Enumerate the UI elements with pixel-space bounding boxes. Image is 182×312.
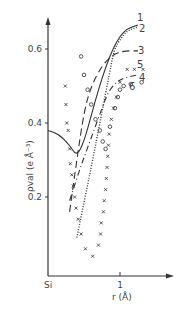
cross-marker-icon xyxy=(106,166,109,169)
x-tick-label: Si xyxy=(44,280,52,290)
curve-label-5: 5 xyxy=(137,59,143,70)
cross-marker-icon xyxy=(102,210,105,213)
cross-marker-icon xyxy=(75,207,78,210)
cross-marker-icon xyxy=(80,233,83,236)
cross-marker-icon xyxy=(110,118,113,121)
y-tick-label: 0.4 xyxy=(28,118,43,128)
circle-marker-icon xyxy=(89,103,93,107)
axis-titles: ρval (e Å⁻³) r (Å) xyxy=(24,140,132,302)
labels: 123546 xyxy=(129,12,145,92)
curve-label-3: 3 xyxy=(138,45,144,56)
x-axis-arrow-icon xyxy=(166,274,174,279)
y-axis-arrow-icon xyxy=(46,17,51,25)
curve-label-1: 1 xyxy=(137,12,143,23)
circle-marker-icon xyxy=(82,73,86,77)
curve-label-2: 2 xyxy=(139,23,145,34)
cross-marker-icon xyxy=(67,129,70,132)
circle-marker-icon xyxy=(101,140,105,144)
x-tick-label: 1 xyxy=(117,280,123,290)
cross-marker-icon xyxy=(65,122,68,125)
cross-marker-icon xyxy=(97,244,100,247)
cross-marker-icon xyxy=(108,133,111,136)
circle-marker-icon xyxy=(94,118,98,122)
cross-marker-icon xyxy=(103,199,106,202)
series-3 xyxy=(70,51,138,212)
circle-marker-icon xyxy=(79,55,83,59)
cross-marker-icon xyxy=(65,103,68,106)
ticks: 0.20.40.6Si1 xyxy=(28,44,123,290)
circle-marker-icon xyxy=(122,84,126,88)
y-tick-label: 0.6 xyxy=(28,44,43,54)
cross-marker-icon xyxy=(106,155,109,158)
curve-3 xyxy=(70,51,138,212)
cross-marker-icon xyxy=(126,68,129,71)
cross-marker-icon xyxy=(99,233,102,236)
series-5 xyxy=(64,68,145,258)
x-axis-title: r (Å) xyxy=(112,291,132,302)
curve-4 xyxy=(70,75,138,201)
y-axis-title: ρval (e Å⁻³) xyxy=(24,140,35,192)
cross-marker-icon xyxy=(70,173,73,176)
cross-marker-icon xyxy=(100,221,103,224)
series-4 xyxy=(70,75,138,201)
curve-label-4: 4 xyxy=(139,72,145,83)
series xyxy=(48,25,145,258)
cross-marker-icon xyxy=(104,188,107,191)
circle-marker-icon xyxy=(104,147,108,151)
cross-marker-icon xyxy=(64,85,67,88)
cross-marker-icon xyxy=(69,162,72,165)
cross-marker-icon xyxy=(73,196,76,199)
cross-marker-icon xyxy=(119,81,122,84)
circle-marker-icon xyxy=(118,88,122,92)
cross-marker-icon xyxy=(133,68,136,71)
circle-marker-icon xyxy=(108,125,112,129)
cross-marker-icon xyxy=(105,177,108,180)
cross-marker-icon xyxy=(107,144,110,147)
cross-marker-icon xyxy=(91,255,94,258)
y-tick-label: 0.2 xyxy=(28,192,42,202)
cross-marker-icon xyxy=(77,218,80,221)
curve-label-6: 6 xyxy=(129,81,135,92)
circle-marker-icon xyxy=(86,88,90,92)
chart-svg: 0.20.40.6Si1 123546 ρval (e Å⁻³) r (Å) xyxy=(0,0,182,312)
cross-marker-icon xyxy=(68,147,71,150)
cross-marker-icon xyxy=(84,247,87,250)
